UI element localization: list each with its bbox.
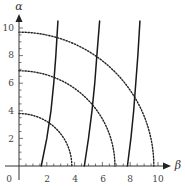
solid-curves	[41, 21, 140, 166]
x-tick-label: 10	[152, 174, 164, 184]
solid-curve-3	[127, 21, 140, 166]
tick-labels: 0 2 4 6 8 10 2 4 6 8 10 β α	[3, 0, 182, 184]
minor-ticks	[19, 28, 165, 166]
axes	[5, 14, 171, 180]
x-tick-label: 2	[44, 174, 50, 184]
dotted-arc-r3.8	[19, 114, 72, 166]
dotted-arcs	[19, 32, 154, 166]
y-tick-label: 4	[8, 106, 14, 116]
x-tick-label: 8	[127, 174, 133, 184]
chart-canvas: 0 2 4 6 8 10 2 4 6 8 10 β α	[0, 0, 185, 186]
x-axis-label: β	[174, 159, 181, 172]
y-tick-label: 8	[8, 50, 14, 60]
dotted-arc-r6.9	[19, 71, 115, 166]
y-axis-label: α	[15, 0, 23, 13]
x-tick-label: 6	[100, 174, 106, 184]
y-tick-label: 6	[8, 78, 14, 88]
solid-curve-2	[84, 21, 99, 166]
y-tick-label: 10	[3, 23, 15, 33]
solid-curve-1	[41, 21, 58, 166]
y-axis-arrow-icon	[16, 14, 23, 22]
x-tick-label: 4	[72, 174, 78, 184]
origin-label: 0	[6, 174, 12, 184]
x-axis-arrow-icon	[163, 163, 171, 170]
y-tick-label: 2	[8, 134, 14, 144]
